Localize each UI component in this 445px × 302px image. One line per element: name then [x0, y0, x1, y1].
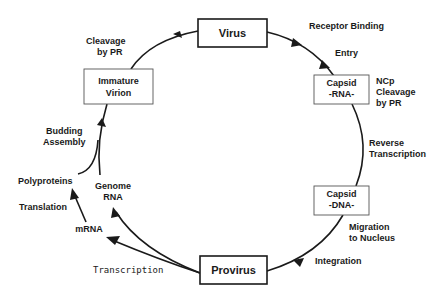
node-capsid-dna: Capsid -DNA- [314, 186, 369, 215]
node-capsid-dna-line2: -DNA- [329, 200, 355, 210]
edge-capsid-rna-to-capsid-dna [352, 104, 363, 186]
label-migration-line1: Migration [349, 222, 390, 232]
edge-provirus-to-genome-rna [116, 212, 200, 273]
label-entry: Entry [335, 48, 358, 58]
node-capsid-rna-line2: -RNA- [329, 89, 355, 99]
label-reverse-transcription-line2: Transcription [369, 149, 426, 159]
node-provirus: Provirus [200, 256, 267, 284]
edge-genome-rna-to-budding [99, 104, 107, 175]
label-integration: Integration [315, 256, 362, 266]
node-provirus-label: Provirus [211, 264, 256, 276]
node-immature-virion-line1: Immature [98, 76, 139, 86]
label-cleavage-by-pr-line1: Cleavage [86, 36, 126, 46]
retrovirus-life-cycle-diagram: Virus Capsid -RNA- Capsid -DNA- Provirus… [0, 0, 445, 302]
node-virus: Virus [198, 19, 267, 47]
label-migration-line2: to Nucleus [349, 233, 395, 243]
arrowhead-polyproteins [70, 188, 79, 200]
node-immature-virion-line2: Virion [106, 88, 131, 98]
label-transcription: Transcription [93, 265, 163, 275]
node-capsid-rna: Capsid -RNA- [314, 75, 369, 104]
label-receptor-binding: Receptor Binding [309, 21, 384, 31]
arrowhead-mrna [106, 236, 120, 245]
label-budding-line1: Budding [46, 126, 83, 136]
label-translation: Translation [19, 202, 67, 212]
node-virus-label: Virus [219, 27, 246, 39]
label-cleavage-by-pr-line2: by PR [97, 47, 123, 57]
node-genome-rna-line1: Genome [95, 181, 131, 191]
arrowhead-budding [97, 118, 106, 127]
label-ncp-line2: Cleavage [376, 87, 416, 97]
node-mrna-label: mRNA [75, 224, 103, 234]
label-reverse-transcription-line1: Reverse [369, 138, 404, 148]
edge-immature-virion-to-virus [131, 31, 198, 69]
node-capsid-rna-line1: Capsid [326, 78, 356, 88]
label-ncp-line1: NCp [376, 76, 395, 86]
node-immature-virion: Immature Virion [84, 69, 153, 104]
edge-virus-to-capsid-rna [267, 32, 334, 76]
node-genome-rna-line2: RNA [103, 192, 123, 202]
node-polyproteins-label: Polyproteins [18, 176, 73, 186]
label-ncp-line3: by PR [376, 98, 402, 108]
node-capsid-dna-line1: Capsid [326, 189, 356, 199]
label-budding-line2: Assembly [43, 137, 86, 147]
